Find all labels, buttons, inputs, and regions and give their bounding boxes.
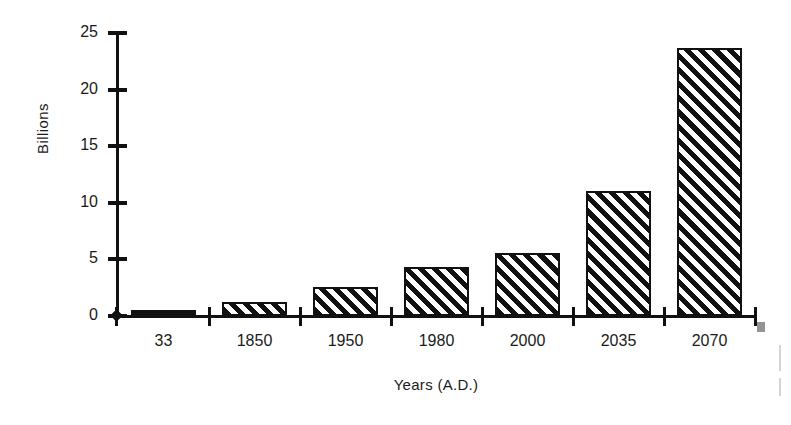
bar-2070 — [677, 48, 743, 316]
y-tick-label-text: 10 — [38, 194, 98, 210]
bar-2000 — [495, 253, 561, 316]
y-tick-label: 0 — [38, 307, 98, 323]
x-tick-mark — [390, 307, 393, 326]
x-tick-mark — [115, 307, 118, 326]
bar-1950 — [313, 287, 379, 316]
y-tick-label-text: 5 — [38, 250, 98, 266]
y-tick-mark — [108, 257, 127, 261]
x-tick-mark — [299, 307, 302, 326]
y-tick-label-text: 15 — [38, 137, 98, 153]
x-axis-title: Years (A.D.) — [116, 376, 756, 393]
page-edge-artifact — [757, 322, 765, 332]
y-axis-line — [116, 32, 119, 318]
population-bar-chart: Billions 0510152025 33185019501980200020… — [0, 0, 791, 425]
x-tick-mark — [208, 307, 211, 326]
page-edge-artifact — [779, 378, 781, 396]
page-edge-artifact — [779, 345, 781, 371]
x-tick-mark — [572, 307, 575, 326]
bar-33 — [131, 310, 197, 316]
x-tick-mark — [481, 307, 484, 326]
y-tick-mark — [108, 31, 127, 35]
x-tick-mark — [663, 307, 666, 326]
bar-1980 — [404, 267, 470, 316]
y-tick-label: 10 — [38, 194, 98, 210]
y-tick-mark — [108, 144, 127, 148]
y-tick-label-text: 0 — [38, 307, 98, 323]
x-tick-label-2070: 2070 — [655, 332, 765, 350]
bar-2035 — [586, 191, 652, 316]
y-tick-label: 5 — [38, 250, 98, 266]
y-tick-label: 20 — [38, 81, 98, 97]
y-tick-label: 15 — [38, 137, 98, 153]
y-tick-mark — [108, 88, 127, 92]
y-tick-mark — [108, 201, 127, 205]
y-tick-label-text: 20 — [38, 81, 98, 97]
y-tick-label-text: 25 — [38, 24, 98, 40]
y-tick-label: 25 — [38, 24, 98, 40]
bar-1850 — [222, 302, 288, 316]
